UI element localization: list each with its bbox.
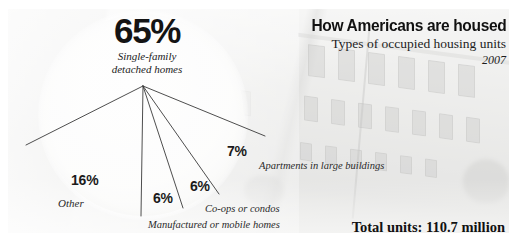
label-other: Other xyxy=(58,197,84,209)
label-apartments: Apartments in large buildings xyxy=(259,160,384,171)
pct-apartments: 7% xyxy=(227,143,247,159)
year-label: 2007 xyxy=(482,53,506,68)
label-coops: Co-ops or condos xyxy=(205,203,280,214)
pct-other: 16% xyxy=(71,172,98,188)
page-subtitle: Types of occupied housing units xyxy=(331,36,506,51)
featured-label: Single-familydetached homes xyxy=(74,50,220,75)
label-manufactured: Manufactured or mobile homes xyxy=(148,219,280,230)
infographic: 65% Single-familydetached homes How Amer… xyxy=(0,0,519,250)
featured-value: 65% xyxy=(84,12,210,50)
pct-coops: 6% xyxy=(190,178,210,194)
page-title: How Americans are housed xyxy=(311,16,506,34)
total-units: Total units: 110.7 million xyxy=(352,219,505,236)
pct-manufactured: 6% xyxy=(153,190,173,206)
